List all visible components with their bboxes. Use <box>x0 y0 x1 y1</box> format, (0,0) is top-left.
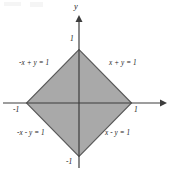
edge-label-upper-right: x + y = 1 <box>109 60 137 67</box>
edge-label-lower-right: x - y = 1 <box>105 130 130 137</box>
x-axis-arrow-icon <box>160 99 167 106</box>
plot-canvas <box>0 0 169 171</box>
y-axis-arrow-icon <box>76 15 83 22</box>
y-tick-label-positive-one: 1 <box>70 35 74 43</box>
x-tick-label-negative-one: -1 <box>13 106 19 114</box>
edge-label-lower-left: -x - y = 1 <box>17 130 45 137</box>
y-tick-label-negative-one: -1 <box>66 158 72 166</box>
x-tick-label-positive-one: 1 <box>134 106 138 114</box>
plot-figure: y 1 -1 -1 1 -x + y = 1 x + y = 1 -x - y … <box>0 0 169 171</box>
edge-label-upper-left: -x + y = 1 <box>19 60 49 67</box>
y-axis-label: y <box>74 3 78 11</box>
